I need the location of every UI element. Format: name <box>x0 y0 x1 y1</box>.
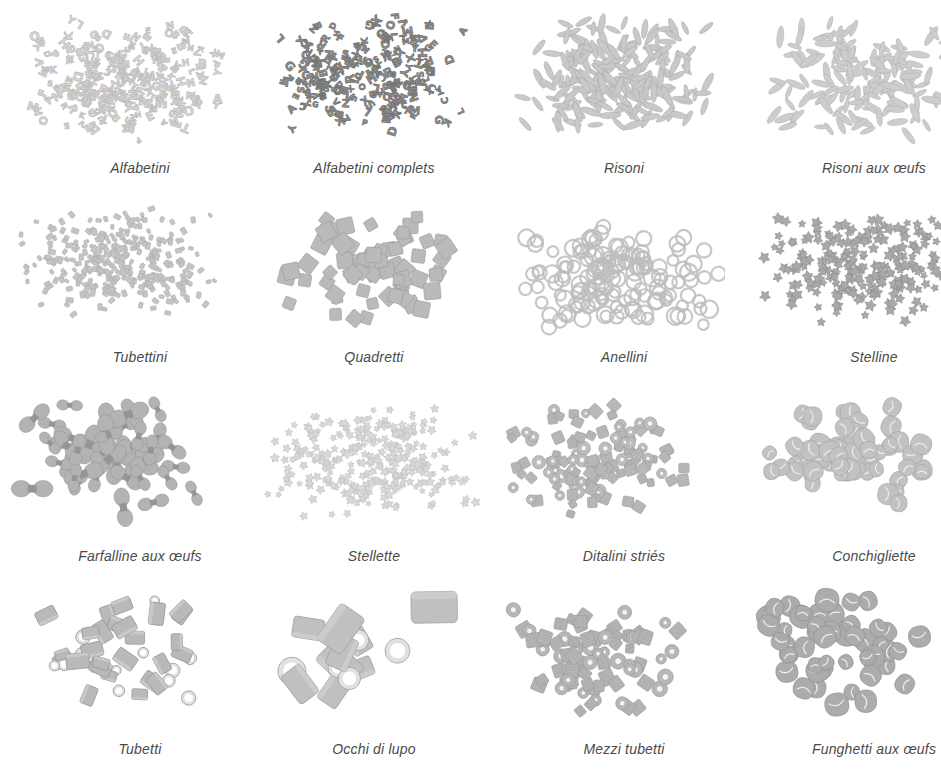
svg-text:Y: Y <box>284 122 298 135</box>
pasta-photo <box>740 195 941 345</box>
pasta-photo <box>490 195 725 345</box>
svg-text:M: M <box>408 104 420 118</box>
pasta-caption: Occhi di lupo <box>257 741 492 757</box>
svg-text:N: N <box>165 19 175 31</box>
svg-text:O: O <box>35 114 50 126</box>
pasta-photo <box>740 388 941 538</box>
svg-text:V: V <box>55 85 65 99</box>
svg-text:V: V <box>63 53 75 67</box>
svg-text:M: M <box>170 89 181 100</box>
pasta-caption: Funghetti aux œufs <box>757 741 941 757</box>
svg-text:D: D <box>441 52 458 66</box>
svg-text:V: V <box>33 57 46 67</box>
svg-text:B: B <box>198 56 208 70</box>
svg-text:T: T <box>105 66 120 75</box>
svg-text:G: G <box>119 48 128 60</box>
svg-text:D: D <box>99 25 114 42</box>
pasta-photo <box>0 388 235 538</box>
svg-text:G: G <box>364 17 376 32</box>
pasta-photo <box>250 195 485 345</box>
svg-text:A: A <box>284 101 299 116</box>
svg-text:Y: Y <box>88 108 98 117</box>
svg-text:T: T <box>379 106 386 117</box>
pasta-photo <box>740 0 941 150</box>
pasta-catalog-grid: BHCBHXNCDMBHPOGPLYKMMBVVDANPEOREZPPEFNYB… <box>0 0 941 777</box>
svg-text:F: F <box>389 12 402 21</box>
pasta-caption: Alfabetini complets <box>257 160 492 176</box>
pasta-caption: Mezzi tubetti <box>507 741 742 757</box>
svg-text:Z: Z <box>109 78 122 88</box>
pasta-caption: Risoni <box>507 160 742 176</box>
pasta-photo <box>0 586 235 736</box>
pasta-caption: Anellini <box>507 349 742 365</box>
svg-text:G: G <box>389 70 397 80</box>
svg-text:G: G <box>432 114 446 125</box>
pasta-caption: Quadretti <box>257 349 492 365</box>
svg-text:K: K <box>78 110 88 121</box>
svg-text:P: P <box>361 118 369 128</box>
svg-text:S: S <box>134 103 140 112</box>
svg-text:O: O <box>356 82 367 91</box>
svg-text:F: F <box>178 103 185 115</box>
pasta-photo: FTKFCNDBCNPXNPSAAOPTLTPHGBDSBBKRXYYDSVAK… <box>250 0 485 150</box>
svg-text:D: D <box>327 21 339 31</box>
svg-text:G: G <box>312 100 319 110</box>
svg-text:N: N <box>309 69 320 84</box>
svg-text:E: E <box>63 121 70 131</box>
svg-text:A: A <box>213 91 223 106</box>
pasta-caption: Conchigliette <box>757 548 941 564</box>
svg-text:E: E <box>128 87 137 101</box>
svg-text:L: L <box>455 107 467 117</box>
svg-text:D: D <box>384 124 400 138</box>
pasta-photo <box>490 0 725 150</box>
pasta-photo <box>250 586 485 736</box>
pasta-caption: Ditalini striés <box>507 548 742 564</box>
pasta-photo <box>490 586 725 736</box>
pasta-caption: Farfalline aux œufs <box>23 548 258 564</box>
pasta-caption: Stellette <box>257 548 492 564</box>
pasta-photo <box>250 388 485 538</box>
svg-text:M: M <box>120 124 130 133</box>
svg-text:T: T <box>282 75 292 90</box>
pasta-caption: Risoni aux œufs <box>757 160 941 176</box>
pasta-caption: Tubettini <box>23 349 258 365</box>
pasta-photo <box>0 195 235 345</box>
svg-text:A: A <box>67 89 75 101</box>
svg-text:F: F <box>36 88 51 99</box>
pasta-caption: Alfabetini <box>23 160 258 176</box>
svg-text:A: A <box>456 24 470 37</box>
pasta-photo <box>490 388 725 538</box>
svg-text:B: B <box>422 21 436 30</box>
pasta-caption: Stelline <box>757 349 941 365</box>
svg-text:F: F <box>133 135 143 145</box>
pasta-photo <box>740 586 941 736</box>
pasta-photo: BHCBHXNCDMBHPOGPLYKMMBVVDANPEOREZPPEFNYB… <box>0 0 235 150</box>
pasta-caption: Tubetti <box>23 741 258 757</box>
svg-text:B: B <box>142 96 152 111</box>
svg-text:E: E <box>290 92 302 102</box>
svg-text:L: L <box>273 31 288 45</box>
svg-text:B: B <box>405 86 419 95</box>
svg-text:E: E <box>181 39 190 45</box>
